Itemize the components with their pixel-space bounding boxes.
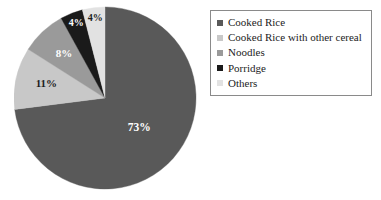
pie-slice-value-label: 8% [56,47,73,59]
legend-item-cooked-rice[interactable]: Cooked Rice [216,15,366,30]
legend-swatch-porridge [217,65,223,71]
legend-item-noodles[interactable]: Noodles [216,45,366,60]
legend-swatch-cooked-rice [217,20,223,26]
legend-swatch-cooked-rice-with-other-cereal [217,35,223,41]
legend-label-others: Others [228,78,257,89]
legend-item-porridge[interactable]: Porridge [216,61,366,76]
legend-label-noodles: Noodles [228,47,265,58]
legend-label-cooked-rice-with-other-cereal: Cooked Rice with other cereal [228,32,362,43]
legend-swatch-others [217,80,223,86]
legend-item-others[interactable]: Others [216,76,366,91]
pie-slices-group [14,7,196,189]
pie-chart-figure: 73%11%8%4%4% Cooked Rice Cooked Rice wit… [0,0,381,200]
pie-plot-area: 73%11%8%4%4% [14,6,200,194]
pie-slice-value-label: 11% [36,77,57,89]
chart-legend: Cooked Rice Cooked Rice with other cerea… [210,10,372,96]
pie-slice-value-label: 4% [69,17,84,28]
legend-label-porridge: Porridge [228,63,266,74]
legend-item-cooked-rice-with-other-cereal[interactable]: Cooked Rice with other cereal [216,30,366,45]
legend-swatch-noodles [217,50,223,56]
pie-svg: 73%11%8%4%4% [14,6,200,194]
pie-slice-value-label: 73% [128,121,151,133]
pie-slice-value-label: 4% [88,12,103,23]
legend-label-cooked-rice: Cooked Rice [228,17,285,28]
